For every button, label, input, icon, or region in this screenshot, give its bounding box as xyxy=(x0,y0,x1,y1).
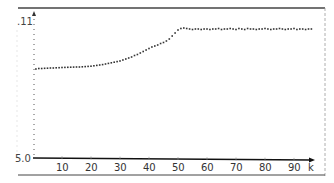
data-point xyxy=(145,49,147,51)
data-point xyxy=(192,29,194,31)
data-point xyxy=(157,44,159,46)
data-point xyxy=(53,67,55,69)
data-point xyxy=(308,28,310,30)
data-point xyxy=(241,28,243,30)
data-point xyxy=(282,28,284,30)
data-point xyxy=(261,28,263,30)
x-tick-label: 10 xyxy=(56,162,69,173)
data-point xyxy=(128,57,130,59)
x-tick-label: 40 xyxy=(143,162,156,173)
data-point xyxy=(238,28,240,30)
x-tick-label: 50 xyxy=(172,162,185,173)
data-point xyxy=(148,48,150,50)
data-point xyxy=(250,28,252,30)
data-point xyxy=(41,68,43,70)
data-point xyxy=(55,67,57,69)
data-point xyxy=(70,66,72,68)
data-point xyxy=(73,66,75,68)
data-point xyxy=(200,29,202,31)
x-tick-labels: 102030405060708090 xyxy=(56,162,301,173)
x-tick-label: 60 xyxy=(201,162,214,173)
data-point xyxy=(290,28,292,30)
data-point xyxy=(160,43,162,45)
data-point xyxy=(96,65,98,67)
data-point xyxy=(134,55,136,57)
data-point xyxy=(293,28,295,30)
data-point xyxy=(99,64,101,66)
data-point xyxy=(163,42,165,44)
data-point xyxy=(311,28,313,30)
data-point xyxy=(305,29,307,31)
x-tick-label: 20 xyxy=(85,162,98,173)
data-point xyxy=(38,68,40,70)
data-point xyxy=(186,28,188,30)
data-point xyxy=(256,29,258,31)
data-point xyxy=(47,67,49,69)
data-point xyxy=(267,28,269,30)
data-point xyxy=(44,68,46,70)
data-point xyxy=(125,58,127,60)
data-point xyxy=(221,29,223,31)
x-tick-label: 80 xyxy=(259,162,272,173)
data-point xyxy=(119,60,121,62)
data-point xyxy=(296,29,298,31)
data-point xyxy=(279,28,281,30)
data-point xyxy=(174,32,176,34)
data-point xyxy=(61,67,63,69)
line-chart: .11 5.0 102030405060708090 k xyxy=(0,0,334,183)
x-tick-label: 70 xyxy=(230,162,243,173)
data-series xyxy=(35,27,312,70)
data-point xyxy=(189,28,191,30)
data-point xyxy=(229,28,231,30)
data-point xyxy=(90,65,92,67)
data-point xyxy=(180,28,182,30)
data-point xyxy=(82,66,84,68)
data-point xyxy=(253,28,255,30)
data-point xyxy=(171,35,173,37)
data-point xyxy=(183,27,185,29)
data-point xyxy=(195,28,197,30)
data-point xyxy=(203,28,205,30)
data-point xyxy=(232,28,234,30)
data-point xyxy=(212,28,214,30)
data-point xyxy=(67,67,69,69)
data-point xyxy=(142,51,144,53)
data-point xyxy=(273,28,275,30)
data-point xyxy=(276,28,278,30)
x-axis-letter: k xyxy=(308,162,314,173)
data-point xyxy=(235,29,237,31)
data-point xyxy=(285,29,287,31)
data-point xyxy=(102,64,104,66)
data-point xyxy=(84,66,86,68)
data-point xyxy=(227,28,229,30)
y-top-label: .11 xyxy=(17,16,33,27)
data-point xyxy=(258,28,260,30)
x-tick-label: 90 xyxy=(288,162,301,173)
y-bottom-label: 5.0 xyxy=(15,153,31,164)
data-point xyxy=(113,61,115,63)
data-point xyxy=(302,28,304,30)
x-tick-label: 30 xyxy=(114,162,127,173)
data-point xyxy=(64,67,66,69)
data-point xyxy=(79,66,81,68)
data-point xyxy=(154,45,156,47)
data-point xyxy=(58,67,60,69)
data-point xyxy=(177,29,179,31)
data-point xyxy=(131,56,133,58)
data-point xyxy=(247,28,249,30)
y-axis xyxy=(32,11,36,158)
data-point xyxy=(244,29,246,31)
data-point xyxy=(105,63,107,65)
data-point xyxy=(140,52,142,54)
data-point xyxy=(50,67,52,69)
data-point xyxy=(35,68,37,70)
data-point xyxy=(76,66,78,68)
data-point xyxy=(169,38,171,40)
data-point xyxy=(166,40,168,42)
data-point xyxy=(151,46,153,48)
data-point xyxy=(218,28,220,30)
data-point xyxy=(198,28,200,30)
data-point xyxy=(264,28,266,30)
data-point xyxy=(111,62,113,64)
data-point xyxy=(206,28,208,30)
